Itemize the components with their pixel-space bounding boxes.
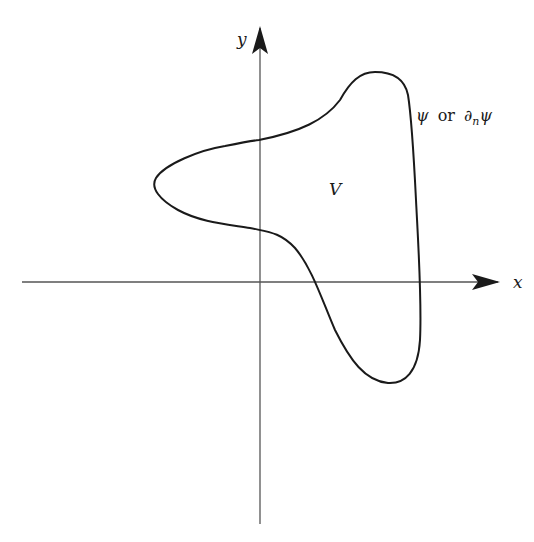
x-axis-label: x — [513, 272, 523, 292]
psi-symbol-2: ψ — [479, 106, 492, 125]
region-label: V — [329, 179, 343, 199]
y-axis-label: y — [236, 29, 247, 49]
normal-subscript: n — [472, 115, 479, 128]
or-word: or — [438, 106, 456, 125]
diagram-canvas: x y V ψ or ∂nψ — [0, 0, 534, 542]
region-boundary-curve — [154, 72, 420, 383]
partial-symbol: ∂ — [464, 106, 472, 125]
boundary-condition-label: ψ or ∂nψ — [416, 106, 492, 128]
psi-symbol: ψ — [416, 106, 429, 125]
